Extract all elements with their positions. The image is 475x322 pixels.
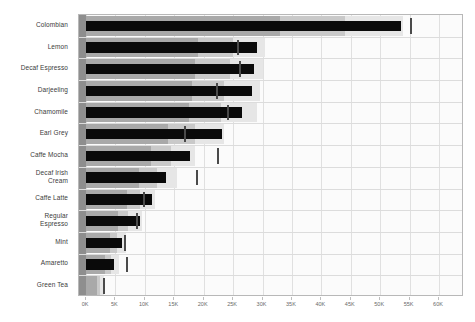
target-marker: [216, 83, 218, 99]
x-tick-mark: [144, 297, 145, 300]
y-axis-labels: ColombianLemonDecaf EspressoDarjeelingCh…: [0, 14, 74, 296]
x-tick-label-10K: 10K: [139, 301, 149, 307]
measure-bar: [86, 238, 122, 248]
target-marker: [184, 126, 186, 142]
x-tick-label-0K: 0K: [82, 301, 89, 307]
y-axis-label-green-tea: Green Tea: [0, 281, 74, 289]
measure-bar: [86, 21, 401, 31]
target-marker: [143, 192, 145, 208]
y-axis-label-caffe-mocha: Caffe Mocha: [0, 151, 74, 159]
y-axis-label-chamomile: Chamomile: [0, 108, 74, 116]
x-tick-label-5K: 5K: [111, 301, 118, 307]
x-tick-mark: [379, 297, 380, 300]
target-marker: [136, 213, 138, 229]
x-tick-label-45K: 45K: [345, 301, 355, 307]
bullet-row: [79, 15, 462, 37]
x-tick-label-35K: 35K: [286, 301, 296, 307]
x-tick-label-15K: 15K: [168, 301, 178, 307]
measure-bar: [86, 86, 252, 96]
x-tick-mark: [85, 297, 86, 300]
y-axis-label-mint: Mint: [0, 238, 74, 246]
y-axis-label-darjeeling: Darjeeling: [0, 86, 74, 94]
measure-bar: [86, 259, 114, 269]
x-tick-mark: [320, 297, 321, 300]
y-axis-label-lemon: Lemon: [0, 43, 74, 51]
target-marker: [196, 170, 198, 186]
measure-bar: [86, 216, 140, 226]
measure-bar: [86, 172, 166, 182]
y-axis-label-colombian: Colombian: [0, 21, 74, 29]
bullet-row: [79, 167, 462, 189]
x-tick-label-60K: 60K: [433, 301, 443, 307]
x-tick-label-50K: 50K: [374, 301, 384, 307]
bullet-row: [79, 275, 462, 296]
bullet-chart: ColombianLemonDecaf EspressoDarjeelingCh…: [0, 0, 475, 322]
x-tick-mark: [203, 297, 204, 300]
y-axis-label-caffe-latte: Caffe Latte: [0, 194, 74, 202]
bullet-row: [79, 254, 462, 276]
bullet-row: [79, 210, 462, 232]
measure-bar: [86, 42, 257, 52]
measure-bar: [86, 129, 222, 139]
target-marker: [237, 40, 239, 56]
measure-bar: [86, 151, 190, 161]
x-tick-label-40K: 40K: [315, 301, 325, 307]
x-tick-mark: [114, 297, 115, 300]
x-tick-mark: [438, 297, 439, 300]
target-marker: [410, 18, 412, 34]
y-axis-label-amaretto: Amaretto: [0, 259, 74, 267]
target-marker: [239, 61, 241, 77]
bullet-row: [79, 145, 462, 167]
qualitative-band-poor: [86, 276, 97, 296]
target-marker: [227, 105, 229, 121]
bullet-row: [79, 58, 462, 80]
x-tick-mark: [291, 297, 292, 300]
bullet-row: [79, 232, 462, 254]
x-tick-mark: [262, 297, 263, 300]
y-axis-label-earl-grey: Earl Grey: [0, 129, 74, 137]
bullet-row: [79, 189, 462, 211]
target-marker: [124, 235, 126, 251]
target-marker: [103, 278, 105, 294]
bullet-row: [79, 80, 462, 102]
measure-bar: [86, 107, 242, 117]
x-tick-label-30K: 30K: [257, 301, 267, 307]
bullet-row: [79, 37, 462, 59]
y-axis-label-decaf-irish-cream: Decaf IrishCream: [0, 169, 74, 185]
target-marker: [126, 257, 128, 273]
x-tick-label-55K: 55K: [404, 301, 414, 307]
measure-bar: [86, 64, 254, 74]
bullet-row: [79, 102, 462, 124]
x-tick-label-20K: 20K: [198, 301, 208, 307]
bullet-row: [79, 123, 462, 145]
y-axis-label-decaf-espresso: Decaf Espresso: [0, 64, 74, 72]
y-axis-label-regular-espresso: RegularEspresso: [0, 212, 74, 228]
x-tick-mark: [350, 297, 351, 300]
x-tick-label-25K: 25K: [227, 301, 237, 307]
x-axis: 0K5K10K15K20K25K30K35K40K45K50K55K60K: [78, 297, 463, 319]
plot-area: [78, 14, 463, 296]
x-tick-mark: [409, 297, 410, 300]
x-tick-mark: [173, 297, 174, 300]
target-marker: [217, 148, 219, 164]
x-tick-mark: [232, 297, 233, 300]
